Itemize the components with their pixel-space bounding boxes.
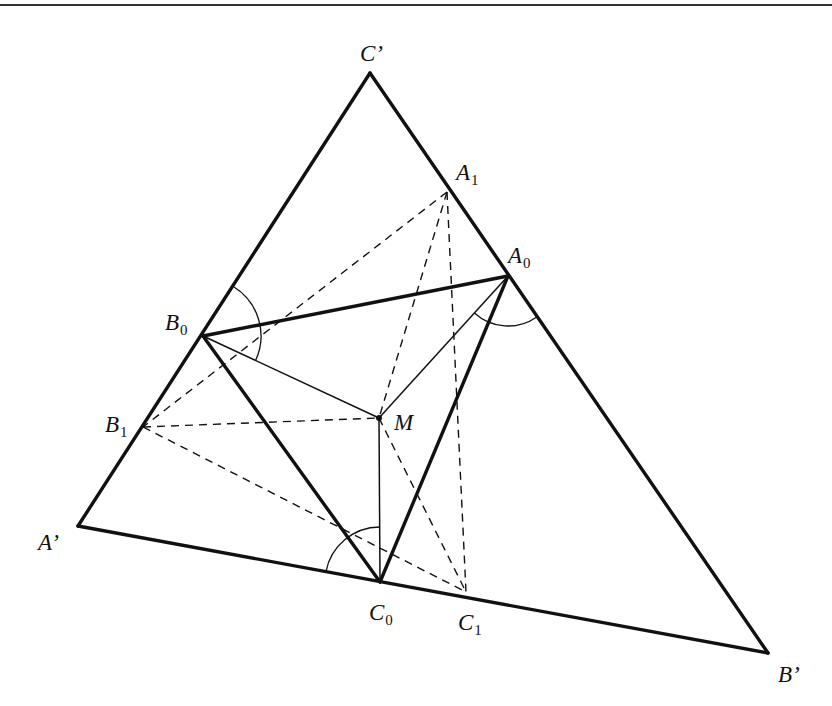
angle-arcs <box>234 287 536 572</box>
triangle-sides <box>78 73 768 653</box>
angle-arc-C0 <box>326 527 380 572</box>
dashed-lines <box>143 192 466 592</box>
angle-arc-A0 <box>474 313 536 326</box>
label-C_prime: C’ <box>360 41 383 66</box>
dashed-segment-M-C1 <box>379 418 466 592</box>
thick-segment-B0-C0 <box>203 336 380 582</box>
label-A_prime: A’ <box>36 530 59 555</box>
point-M-dot <box>376 415 382 421</box>
geometry-diagram: C’A’B’A1A0B0B1MC0C1 <box>0 0 832 706</box>
dashed-segment-A1-C1 <box>447 192 466 592</box>
label-B0: B0 <box>165 310 188 338</box>
label-B_prime: B’ <box>778 662 800 687</box>
thin-segment-M-B0 <box>203 336 379 418</box>
label-C1: C1 <box>458 610 482 638</box>
thin-segment-M-C0 <box>379 418 380 582</box>
label-M: M <box>393 410 415 435</box>
label-B1: B1 <box>105 412 128 440</box>
thick-segment-C_prime-A_prime <box>78 73 370 526</box>
thick-segment-A_prime-B_prime <box>78 526 768 653</box>
label-A0: A0 <box>506 243 531 271</box>
dashed-segment-A1-M <box>379 192 447 418</box>
label-A1: A1 <box>454 160 479 188</box>
label-C0: C0 <box>369 600 393 628</box>
dashed-segment-A1-B1 <box>143 192 447 427</box>
